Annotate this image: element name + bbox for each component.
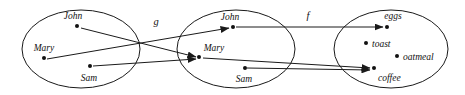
node-label-sam-middle: Sam — [236, 74, 253, 84]
figure-canvas: John Mary Sam John Mary Sam eggs toast o… — [0, 0, 465, 95]
set-middle-elements: John Mary Sam — [197, 12, 252, 84]
node-label-john-domain: John — [64, 11, 83, 21]
map-label-f: f — [307, 10, 312, 21]
node-dot-coffee — [372, 66, 376, 70]
node-dot-mary-domain — [42, 56, 46, 60]
node-dot-eggs — [385, 25, 389, 29]
map-label-g: g — [153, 16, 158, 27]
function-composition-diagram: John Mary Sam John Mary Sam eggs toast o… — [0, 0, 465, 95]
node-dot-sam-domain — [88, 64, 92, 68]
node-dot-john-middle — [231, 25, 235, 29]
node-label-mary-middle: Mary — [203, 43, 225, 53]
node-label-sam-domain: Sam — [81, 73, 98, 83]
set-codomain-elements: eggs toast oatmeal coffee — [364, 11, 434, 83]
set-domain-elements: John Mary Sam — [33, 11, 98, 83]
node-dot-toast — [364, 41, 368, 45]
node-dot-oatmeal — [395, 54, 399, 58]
node-label-john-middle: John — [221, 12, 240, 22]
node-label-oatmeal: oatmeal — [403, 52, 434, 62]
node-label-mary-domain: Mary — [33, 43, 55, 53]
node-dot-john-domain — [75, 24, 79, 28]
arrow-sam-to-coffee — [247, 68, 370, 70]
node-label-coffee: coffee — [378, 73, 401, 83]
arrow-mary-to-coffee — [203, 58, 370, 68]
node-label-eggs: eggs — [384, 11, 402, 21]
node-dot-sam-middle — [243, 66, 247, 70]
node-label-toast: toast — [372, 39, 391, 49]
arrow-mary-to-john — [47, 28, 229, 59]
arrow-john-to-mary — [81, 28, 196, 57]
node-dot-mary-middle — [197, 55, 201, 59]
